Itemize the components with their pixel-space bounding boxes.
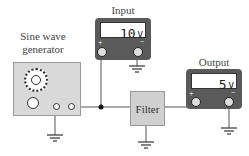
input-display: 10V	[100, 22, 146, 38]
plus-terminal	[97, 47, 107, 57]
output-terminal	[68, 103, 75, 110]
minus-sign: −	[231, 88, 236, 97]
generator-label: Sine wave generator	[8, 30, 78, 56]
minus-sign: −	[140, 37, 145, 46]
output-display: 5V	[191, 73, 237, 89]
frequency-dial-icon[interactable]	[24, 68, 48, 92]
junction-dot	[99, 105, 104, 110]
output-voltmeter: 5V + −	[186, 69, 242, 109]
plus-sign: +	[98, 38, 103, 47]
output-meter-label: Output	[186, 56, 242, 69]
sine-wave-generator	[13, 62, 81, 116]
plus-terminal	[191, 97, 201, 107]
minus-terminal	[133, 47, 143, 57]
amplitude-knob-icon[interactable]	[27, 97, 39, 109]
input-meter-label: Input	[95, 4, 151, 17]
ground-terminal	[53, 103, 60, 110]
filter-box: Filter	[130, 91, 165, 126]
input-voltmeter: 10V + −	[95, 18, 151, 60]
minus-terminal	[224, 97, 234, 107]
